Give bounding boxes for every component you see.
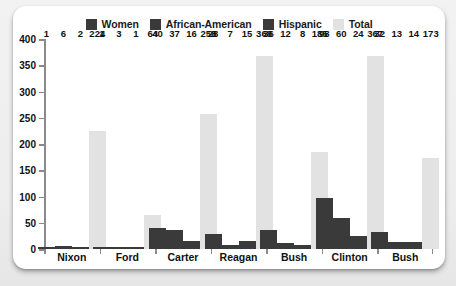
bar-group: 36128185Bush [266, 39, 322, 249]
bar-value-label: 8 [300, 29, 305, 39]
bar-value-label: 15 [242, 29, 253, 39]
bar: 6 [55, 246, 72, 249]
bar-item: 13 [388, 39, 405, 249]
bar-value-label: 28 [208, 29, 219, 39]
x-axis-label: Reagan [211, 251, 267, 263]
bar: 173 [422, 158, 439, 249]
bar: 3 [110, 247, 127, 249]
bar-group-bars: 13164 [100, 39, 156, 249]
bar: 1 [93, 247, 110, 249]
bar: 37 [166, 230, 183, 249]
bar-item: 2 [72, 39, 89, 249]
bar-item: 1 [38, 39, 55, 249]
plot-area: 050100150200250300350400 162224Nixon1316… [44, 39, 433, 249]
bar-value-label: 37 [169, 29, 180, 39]
bar-item: 1 [93, 39, 110, 249]
bar: 8 [294, 245, 311, 249]
y-axis-label: 100 [19, 191, 36, 202]
bar-groups: 162224Nixon13164Ford403716258Carter28715… [44, 39, 433, 249]
bar-group: 321314173Bush [377, 39, 433, 249]
bar: 98 [316, 198, 333, 249]
bar-item: 1 [127, 39, 144, 249]
bar-item: 28 [205, 39, 222, 249]
bar: 13 [388, 242, 405, 249]
bar-item: 15 [239, 39, 256, 249]
bar-item: 12 [277, 39, 294, 249]
bar-item: 8 [294, 39, 311, 249]
bar-group-bars: 36128185 [266, 39, 322, 249]
bar-group: 162224Nixon [44, 39, 100, 249]
bar-value-label: 3 [116, 29, 121, 39]
bar-item: 3 [110, 39, 127, 249]
bar-item: 32 [371, 39, 388, 249]
bar-value-label: 40 [152, 29, 163, 39]
bar-value-label: 98 [319, 29, 330, 39]
bar-value-label: 14 [408, 29, 419, 39]
y-axis-label: 400 [19, 34, 36, 45]
bar-item: 6 [55, 39, 72, 249]
bar: 1 [127, 247, 144, 249]
bar: 1 [38, 247, 55, 249]
y-axis-label: 150 [19, 165, 36, 176]
bar-value-label: 24 [353, 29, 364, 39]
bar-item: 40 [149, 39, 166, 249]
bar: 24 [350, 236, 367, 249]
x-axis-label: Ford [100, 251, 156, 263]
bar: 28 [205, 234, 222, 249]
bar: 7 [222, 245, 239, 249]
bar-value-label: 173 [423, 29, 439, 39]
bar-value-label: 13 [391, 29, 402, 39]
bar: 60 [333, 218, 350, 250]
bar-value-label: 1 [44, 29, 49, 39]
bar: 16 [183, 241, 200, 249]
bar-value-label: 7 [227, 29, 232, 39]
bar-value-label: 2 [78, 29, 83, 39]
bar: 36 [260, 230, 277, 249]
bar-value-label: 1 [99, 29, 104, 39]
bar-item: 7 [222, 39, 239, 249]
bar-item: 36 [260, 39, 277, 249]
y-axis-label: 0 [30, 244, 36, 255]
bar-value-label: 36 [263, 29, 274, 39]
y-axis-label: 350 [19, 60, 36, 71]
bar-value-label: 12 [280, 29, 291, 39]
bar-group: 403716258Carter [155, 39, 211, 249]
bar-item: 16 [183, 39, 200, 249]
bar-item: 24 [350, 39, 367, 249]
x-axis-label: Carter [155, 251, 211, 263]
bar: 15 [239, 241, 256, 249]
bar-value-label: 1 [133, 29, 138, 39]
bar-group: 986024367Clinton [322, 39, 378, 249]
bar-group-bars: 403716258 [155, 39, 211, 249]
bar: 12 [277, 243, 294, 249]
bar: 2 [72, 247, 89, 249]
x-axis-label: Bush [377, 251, 433, 263]
bar-group: 28715368Reagan [211, 39, 267, 249]
bar-item: 37 [166, 39, 183, 249]
x-axis-label: Bush [266, 251, 322, 263]
x-axis-label: Clinton [322, 251, 378, 263]
y-axis-label: 250 [19, 112, 36, 123]
bar-group-bars: 28715368 [211, 39, 267, 249]
y-axis-label: 300 [19, 86, 36, 97]
bar-group: 13164Ford [100, 39, 156, 249]
x-axis-label: Nixon [44, 251, 100, 263]
bar-group-bars: 162224 [44, 39, 100, 249]
bar: 14 [405, 242, 422, 249]
bar-item: 60 [333, 39, 350, 249]
bar-item: 173 [422, 39, 439, 249]
bar-value-label: 6 [61, 29, 66, 39]
chart-card: WomenAfrican-AmericanHispanicTotal 05010… [13, 6, 445, 269]
bar-value-label: 60 [336, 29, 347, 39]
y-axis-label: 50 [25, 217, 36, 228]
bar-value-label: 32 [374, 29, 385, 39]
bar-group-bars: 986024367 [322, 39, 378, 249]
bar: 32 [371, 232, 388, 249]
y-axis-label: 200 [19, 139, 36, 150]
bar: 40 [149, 228, 166, 249]
bar-group-bars: 321314173 [377, 39, 433, 249]
bar-item: 14 [405, 39, 422, 249]
bar-item: 98 [316, 39, 333, 249]
bar-value-label: 16 [186, 29, 197, 39]
